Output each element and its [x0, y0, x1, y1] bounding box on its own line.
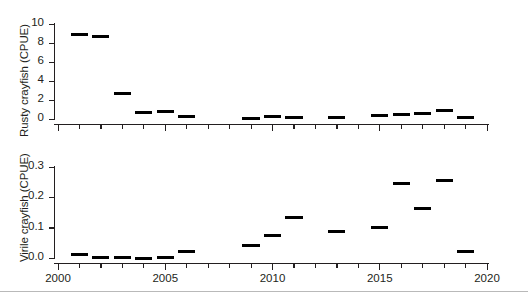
x-tick-mark-minor [122, 125, 123, 129]
data-segment [242, 244, 259, 247]
x-tick-mark-minor [251, 125, 252, 129]
data-segment [264, 115, 281, 118]
data-segment [157, 110, 174, 113]
data-segment [135, 111, 152, 114]
x-tick-mark-minor [229, 264, 230, 268]
x-tick-label: 2020 [462, 272, 512, 284]
x-tick-mark-minor [336, 264, 337, 268]
x-tick-mark-minor [358, 125, 359, 129]
x-tick-mark-major [379, 125, 380, 131]
x-tick-label: 2010 [248, 272, 298, 284]
data-segment [178, 115, 195, 118]
x-tick-mark-major [272, 264, 273, 270]
x-tick-mark-major [58, 264, 59, 270]
x-tick-mark-major [379, 264, 380, 270]
data-segment [371, 226, 388, 229]
data-segment [114, 92, 131, 95]
x-tick-mark-major [165, 264, 166, 270]
y-tick-label: 10 [10, 16, 44, 28]
x-tick-mark-major [487, 125, 488, 131]
x-tick-mark-minor [100, 125, 101, 129]
data-segment [393, 182, 410, 185]
y-tick-label: 0.1 [10, 220, 44, 232]
data-segment [92, 35, 109, 38]
data-segment [393, 113, 410, 116]
data-segment [242, 117, 259, 120]
x-tick-mark-minor [465, 264, 466, 268]
data-segment [285, 116, 302, 119]
x-tick-mark-minor [336, 125, 337, 129]
x-tick-mark-minor [79, 264, 80, 268]
x-tick-mark-minor [143, 125, 144, 129]
x-tick-mark-minor [465, 125, 466, 129]
x-tick-mark-minor [358, 264, 359, 268]
x-tick-mark-minor [208, 264, 209, 268]
x-tick-mark-minor [315, 125, 316, 129]
data-segment [92, 256, 109, 259]
x-tick-mark-major [58, 125, 59, 131]
data-segment [436, 109, 453, 112]
x-tick-mark-minor [251, 264, 252, 268]
y-axis-spine [54, 23, 55, 120]
y-tick-label: 0.2 [10, 189, 44, 201]
x-tick-mark-minor [401, 264, 402, 268]
data-segment [371, 114, 388, 117]
x-tick-mark-major [487, 264, 488, 270]
data-segment [135, 257, 152, 260]
y-tick-label: 2 [10, 92, 44, 104]
data-segment [71, 253, 88, 256]
x-tick-mark-minor [79, 125, 80, 129]
data-segment [71, 33, 88, 36]
x-tick-mark-minor [422, 264, 423, 268]
x-tick-label: 2015 [355, 272, 405, 284]
data-segment [285, 216, 302, 219]
x-tick-mark-major [272, 125, 273, 131]
x-tick-mark-minor [143, 264, 144, 268]
x-tick-label: 2000 [33, 272, 83, 284]
x-tick-mark-minor [444, 125, 445, 129]
data-segment [457, 250, 474, 253]
x-tick-mark-minor [100, 264, 101, 268]
data-segment [328, 230, 345, 233]
data-segment [436, 179, 453, 182]
y-tick-label: 6 [10, 54, 44, 66]
x-tick-mark-minor [293, 264, 294, 268]
chart-panel-rusty-crayfish: Rusty crayfish (CPUE) 0246810 [0, 0, 528, 148]
x-tick-mark-minor [444, 264, 445, 268]
data-segment [178, 250, 195, 253]
y-tick-label: 0.3 [10, 159, 44, 171]
data-segment [157, 256, 174, 259]
data-segment [414, 207, 431, 210]
x-tick-mark-major [165, 125, 166, 131]
x-tick-mark-minor [186, 125, 187, 129]
x-tick-label: 2005 [140, 272, 190, 284]
x-tick-mark-minor [229, 125, 230, 129]
x-tick-mark-minor [186, 264, 187, 268]
data-segment [264, 234, 281, 237]
x-tick-mark-minor [315, 264, 316, 268]
y-tick-label: 0 [10, 111, 44, 123]
data-segment [414, 112, 431, 115]
x-tick-mark-minor [422, 125, 423, 129]
y-tick-label: 0.0 [10, 250, 44, 262]
chart-panel-virile-crayfish: Virile crayfish (CPUE) 0.00.10.20.3 2000… [0, 146, 528, 286]
figure-container: Rusty crayfish (CPUE) 0246810 Virile cra… [0, 0, 528, 298]
x-tick-mark-minor [122, 264, 123, 268]
y-tick-label: 8 [10, 35, 44, 47]
footer-divider-rule [0, 291, 528, 292]
data-segment [114, 256, 131, 259]
y-axis-spine [54, 166, 55, 259]
x-tick-mark-minor [293, 125, 294, 129]
data-segment [457, 116, 474, 119]
y-tick-label: 4 [10, 73, 44, 85]
x-tick-mark-minor [208, 125, 209, 129]
data-segment [328, 116, 345, 119]
x-tick-mark-minor [401, 125, 402, 129]
